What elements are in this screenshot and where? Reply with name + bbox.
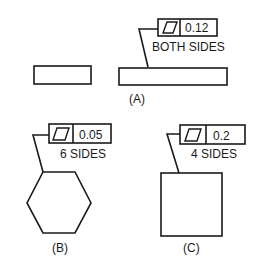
label-a: (A)	[129, 92, 145, 106]
right-rectangle-a	[119, 68, 227, 85]
label-b: (B)	[52, 241, 68, 255]
leader-line-c	[167, 134, 180, 173]
note-b: 6 SIDES	[60, 147, 106, 161]
parallelogram-icon	[53, 128, 69, 140]
diagram-canvas: 0.12 BOTH SIDES (A) 0.05 6 SIDES (B) 0.2…	[0, 0, 255, 266]
diagram-svg: 0.12 BOTH SIDES (A) 0.05 6 SIDES (B) 0.2…	[0, 0, 255, 266]
parallelogram-icon	[163, 22, 177, 33]
hexagon-b	[27, 172, 91, 233]
label-c: (C)	[183, 241, 200, 255]
note-a: BOTH SIDES	[152, 40, 225, 54]
tolerance-value-a: 0.12	[185, 21, 209, 35]
left-rectangle-a	[34, 66, 91, 84]
parallelogram-icon	[185, 129, 201, 141]
tolerance-value-b: 0.05	[79, 128, 103, 142]
tolerance-value-c: 0.2	[213, 129, 230, 143]
note-c: 4 SIDES	[191, 147, 237, 161]
leader-line-b	[33, 135, 49, 172]
panel-c	[161, 125, 245, 236]
square-c	[161, 173, 222, 236]
